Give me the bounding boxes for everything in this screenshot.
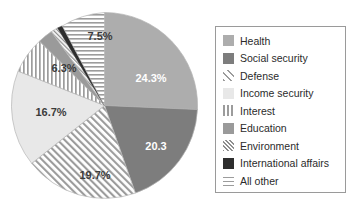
legend-item-defense[interactable]: Defense — [223, 67, 345, 85]
data-label-health: 24.3% — [135, 72, 166, 84]
data-label-defense: 19.7% — [79, 169, 110, 181]
legend-swatch-social-security-icon — [223, 53, 234, 64]
chart-legend: Health Social security Defense Income se… — [215, 26, 346, 193]
legend-swatch-interest-icon — [223, 105, 234, 116]
legend-swatch-defense-icon — [223, 70, 234, 81]
legend-item-education[interactable]: Education — [223, 120, 345, 138]
legend-label-income-security: Income security — [240, 88, 314, 99]
legend-label-interest: Interest — [240, 106, 275, 117]
legend-label-defense: Defense — [240, 71, 279, 82]
legend-label-social-security: Social security — [240, 53, 308, 64]
legend-swatch-environment-icon — [223, 140, 234, 151]
data-label-interest: 6.3% — [51, 62, 76, 74]
legend-swatch-all-other-icon — [223, 175, 234, 186]
legend-label-international-affairs: International affairs — [240, 158, 329, 169]
pie-chart-area: 24.3% 20.3 19.7% 16.7% 6.3% 7.5% — [11, 10, 198, 201]
pie-slice-health[interactable] — [105, 12, 198, 109]
legend-label-all-other: All other — [240, 176, 279, 187]
legend-label-environment: Environment — [240, 141, 299, 152]
data-label-income-security: 16.7% — [35, 106, 66, 118]
legend-item-international-affairs[interactable]: International affairs — [223, 155, 345, 173]
legend-item-interest[interactable]: Interest — [223, 102, 345, 120]
legend-item-income-security[interactable]: Income security — [223, 85, 345, 103]
legend-swatch-income-security-icon — [223, 88, 234, 99]
data-label-social-security: 20.3 — [145, 140, 166, 152]
legend-item-health[interactable]: Health — [223, 32, 345, 50]
data-label-all-other: 7.5% — [87, 30, 112, 42]
pie-svg: 24.3% 20.3 19.7% 16.7% 6.3% 7.5% — [11, 10, 198, 201]
legend-item-social-security[interactable]: Social security — [223, 50, 345, 68]
legend-label-health: Health — [240, 36, 270, 47]
legend-item-all-other[interactable]: All other — [223, 172, 345, 190]
legend-label-education: Education — [240, 123, 287, 134]
pie-chart-figure: 24.3% 20.3 19.7% 16.7% 6.3% 7.5% Health … — [0, 0, 351, 210]
legend-item-environment[interactable]: Environment — [223, 137, 345, 155]
legend-swatch-education-icon — [223, 123, 234, 134]
legend-swatch-health-icon — [223, 35, 234, 46]
legend-swatch-international-affairs-icon — [223, 158, 234, 169]
